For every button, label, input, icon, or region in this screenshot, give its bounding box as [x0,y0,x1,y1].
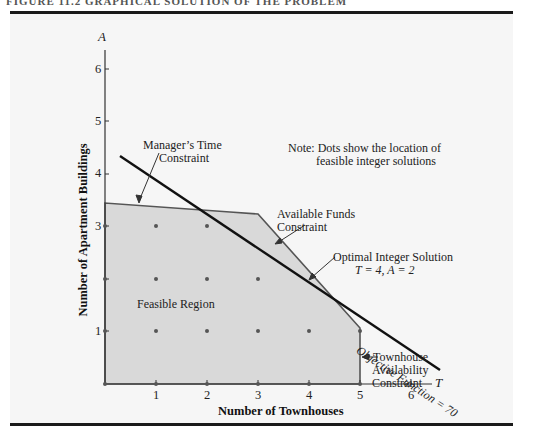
y-tick-label: 6 [95,62,101,77]
y-tick-label: 5 [95,114,101,129]
y-axis-title: Number of Apartment Buildings [76,143,91,316]
x-tick-label: 5 [357,388,363,403]
managers-time-label: Manager’s Time Constraint [143,139,222,165]
optimal-solution-label: Optimal Integer Solution T = 4, A = 2 [333,251,453,277]
x-tick-label: 1 [153,388,159,403]
note-label: Note: Dots show the location of feasible… [288,142,441,168]
y-axis-symbol: A [98,30,106,43]
x-axis-title: Number of Townhouses [218,404,344,419]
available-funds-label: Available Funds Constraint [277,208,355,234]
x-tick-label: 2 [204,388,210,403]
x-axis-symbol: T [435,376,442,389]
y-tick-label: 3 [95,219,101,234]
x-tick-label: 4 [306,388,312,403]
feasible-region-label: Feasible Region [137,298,215,311]
townhouse-availability-label: Townhouse Availability Constraint [372,351,428,390]
x-tick-label: 3 [255,388,261,403]
y-tick-label: 4 [95,166,101,181]
y-tick-label: 1 [95,324,101,339]
